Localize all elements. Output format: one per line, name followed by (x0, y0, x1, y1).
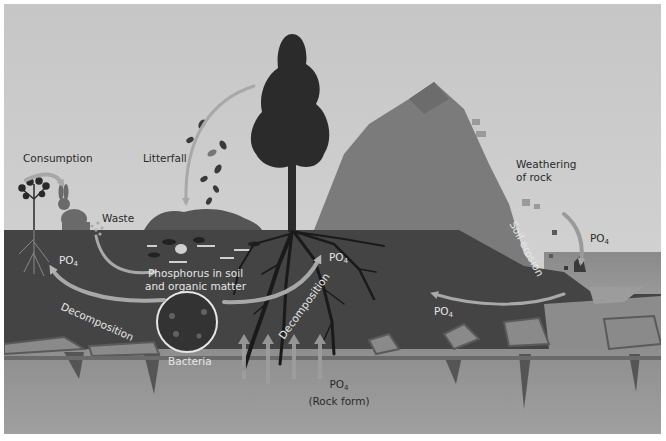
po4-rock-label: PO4 (Rock form) (304, 378, 374, 408)
phosphorus-soil-label: Phosphorus in soil and organic matter (145, 267, 246, 293)
po4-water-text: PO (590, 232, 605, 244)
weathering-label: Weathering of rock (516, 158, 576, 184)
po4-rock-line1: PO4 (304, 378, 374, 395)
po4-tree-text: PO (329, 251, 344, 263)
weathering-label-line2: of rock (516, 171, 576, 184)
litterfall-label: Litterfall (143, 152, 187, 165)
bacteria-magnifier (157, 292, 217, 352)
po4-water-subscript: 4 (605, 238, 609, 246)
weathering-label-line1: Weathering (516, 158, 576, 171)
po4-soil-right-subscript: 4 (449, 311, 453, 319)
po4-rock-subscript: 4 (344, 384, 348, 392)
phosphorus-soil-line1: Phosphorus in soil (145, 267, 246, 280)
po4-soil-right-text: PO (434, 305, 449, 317)
po4-plant-subscript: 4 (74, 260, 78, 268)
consumption-label: Consumption (23, 152, 93, 165)
po4-tree-label: PO4 (329, 251, 348, 268)
phosphorus-cycle-diagram: Consumption Litterfall Waste Weathering … (4, 4, 661, 434)
po4-soil-right-label: PO4 (434, 305, 453, 322)
po4-rock-text: PO (329, 378, 344, 390)
waste-label: Waste (102, 212, 134, 225)
phosphorus-soil-line2: and organic matter (145, 280, 246, 293)
po4-water-label: PO4 (590, 232, 609, 249)
po4-tree-subscript: 4 (344, 257, 348, 265)
po4-plant-text: PO (59, 254, 74, 266)
bacteria-label: Bacteria (168, 355, 212, 368)
rock-form-text: (Rock form) (304, 395, 374, 408)
po4-plant-label: PO4 (59, 254, 78, 271)
